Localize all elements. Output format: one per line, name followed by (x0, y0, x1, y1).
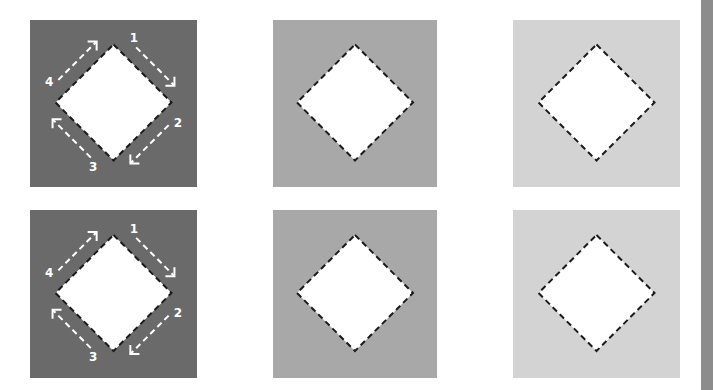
side-scrollbar[interactable] (701, 0, 713, 390)
arrow-number-label: 4 (45, 75, 53, 89)
arrow-number-label: 1 (130, 31, 138, 45)
diagram-panel-2-1: 1234 (30, 210, 197, 378)
arrow-number-label: 1 (130, 222, 138, 236)
diagram-panel-1-3 (513, 20, 680, 187)
diagram-panel-1-2 (273, 20, 437, 187)
arrow-number-label: 3 (89, 350, 97, 364)
arrow-number-label: 2 (174, 306, 182, 320)
diagram-panel-2-3 (513, 210, 680, 378)
diagram-panel-1-1: 1234 (30, 20, 197, 187)
arrow-number-label: 4 (45, 266, 53, 280)
diagram-panel-2-2 (273, 210, 437, 378)
arrow-number-label: 3 (89, 160, 97, 174)
arrow-number-label: 2 (174, 116, 182, 130)
